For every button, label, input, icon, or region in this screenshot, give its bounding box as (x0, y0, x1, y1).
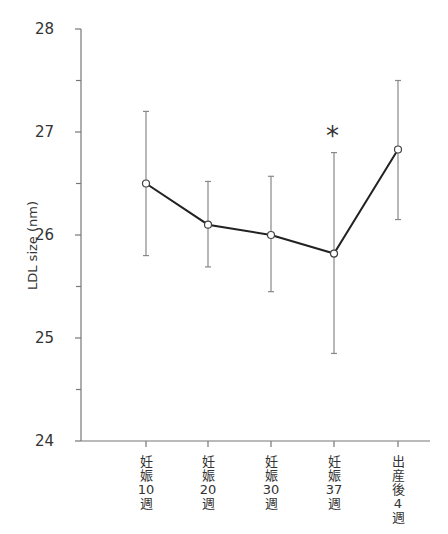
x-label-line: 娠 (319, 469, 349, 483)
x-label-line: 妊 (256, 455, 286, 469)
significance-asterisk: * (326, 126, 339, 146)
x-label-line: 10 (131, 483, 161, 497)
data-point (268, 232, 275, 239)
x-label-line: 週 (256, 497, 286, 511)
data-point (205, 221, 212, 228)
y-tick-label: 24 (14, 433, 54, 449)
x-label-line: 娠 (256, 469, 286, 483)
x-label-line: 37 (319, 483, 349, 497)
x-label-line: 週 (193, 497, 223, 511)
x-label-line: 週 (383, 511, 413, 525)
x-label-line: 出 (383, 455, 413, 469)
y-tick-label: 26 (14, 227, 54, 243)
data-point (395, 146, 402, 153)
x-label-line: 妊 (131, 455, 161, 469)
data-point (331, 250, 338, 257)
y-tick-label: 27 (14, 124, 54, 140)
x-label-line: 週 (131, 497, 161, 511)
x-label-line: 妊 (319, 455, 349, 469)
y-tick-label: 25 (14, 330, 54, 346)
x-tick-label: 出産後4週 (383, 455, 413, 525)
x-label-line: 週 (319, 497, 349, 511)
x-label-line: 妊 (193, 455, 223, 469)
x-label-line: 娠 (193, 469, 223, 483)
x-tick-label: 妊娠30週 (256, 455, 286, 511)
x-label-line: 4 (383, 497, 413, 511)
data-point (143, 180, 150, 187)
line-chart (0, 0, 448, 534)
x-label-line: 後 (383, 483, 413, 497)
y-tick-label: 28 (14, 21, 54, 37)
y-axis-label: LDL size (nm) (25, 196, 40, 296)
x-label-line: 30 (256, 483, 286, 497)
x-label-line: 娠 (131, 469, 161, 483)
x-label-line: 20 (193, 483, 223, 497)
x-label-line: 産 (383, 469, 413, 483)
x-tick-label: 妊娠10週 (131, 455, 161, 511)
x-tick-label: 妊娠37週 (319, 455, 349, 511)
x-tick-label: 妊娠20週 (193, 455, 223, 511)
